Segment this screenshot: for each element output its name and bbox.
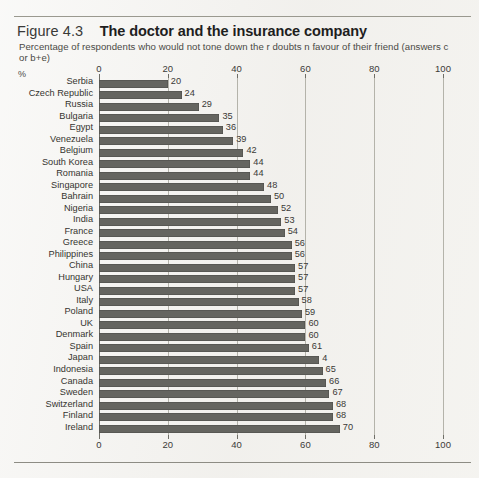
category-label: Czech Republic	[29, 88, 93, 98]
axis-tick-label-100: 100	[435, 439, 451, 450]
category-label: Venezuela	[50, 134, 93, 144]
bar-value-label: 70	[343, 422, 353, 432]
category-labels: SerbiaCzech RepublicRussiaBulgariaEgyptV…	[0, 78, 93, 435]
category-label: Poland	[64, 306, 93, 316]
category-label: Bulgaria	[59, 111, 93, 121]
category-row: Switzerland	[0, 402, 93, 410]
category-row: Poland	[0, 310, 93, 318]
bar-value-label: 44	[253, 157, 263, 167]
axis-tick-label-60: 60	[300, 439, 311, 450]
axis-tick-label-40: 40	[231, 439, 242, 450]
category-row: Finland	[0, 413, 93, 421]
bottom-divider	[14, 462, 471, 463]
bar-row: 61	[99, 344, 443, 352]
bar-row: 53	[99, 218, 443, 226]
category-label: Canada	[61, 376, 93, 386]
category-label: Greece	[63, 237, 93, 247]
bar	[99, 126, 223, 134]
bar-row: 54	[99, 229, 443, 237]
bar-value-label: 57	[298, 284, 308, 294]
bar	[99, 390, 329, 398]
bar-row: 44	[99, 160, 443, 168]
category-row: France	[0, 229, 93, 237]
category-row: Nigeria	[0, 206, 93, 214]
bar-value-label: 35	[222, 111, 232, 121]
bar-value-label: 44	[253, 168, 263, 178]
bar-value-label: 60	[308, 318, 318, 328]
category-label: Bahrain	[61, 191, 93, 201]
axis-tick-label-0: 0	[96, 63, 101, 74]
bar-row: 68	[99, 413, 443, 421]
axis-tick-label-100: 100	[435, 63, 451, 74]
bar-row: 57	[99, 287, 443, 295]
axis-tick-label-80: 80	[369, 63, 380, 74]
category-label: Italy	[76, 295, 93, 305]
bar-value-label: 59	[305, 307, 315, 317]
bar-value-label: 20	[171, 76, 181, 86]
axis-tick-20	[168, 74, 169, 78]
bar-row: 4	[99, 356, 443, 364]
category-row: Ireland	[0, 425, 93, 433]
bar	[99, 183, 264, 191]
category-row: Spain	[0, 344, 93, 352]
bar	[99, 137, 233, 145]
axis-tick-label-0: 0	[96, 439, 101, 450]
category-label: Belgium	[60, 145, 93, 155]
category-row: UK	[0, 321, 93, 329]
bar	[99, 172, 250, 180]
bar-row: 66	[99, 379, 443, 387]
category-label: Switzerland	[46, 399, 94, 409]
bar-row: 44	[99, 172, 443, 180]
bar	[99, 379, 326, 387]
category-row: Russia	[0, 103, 93, 111]
category-label: France	[64, 226, 93, 236]
bar	[99, 264, 295, 272]
bar-row: 60	[99, 321, 443, 329]
bar-value-label: 42	[246, 145, 256, 155]
bar-value-label: 61	[312, 341, 322, 351]
category-label: Indonesia	[53, 364, 93, 374]
axis-tick-100	[443, 74, 444, 78]
bar	[99, 310, 302, 318]
bar-row: 50	[99, 195, 443, 203]
category-row: Venezuela	[0, 137, 93, 145]
bar-value-label: 57	[298, 261, 308, 271]
bar	[99, 413, 333, 421]
figure-title: The doctor and the insurance company	[100, 23, 367, 39]
bar	[99, 229, 285, 237]
bar	[99, 206, 278, 214]
bar-value-label: 4	[322, 353, 327, 363]
bar-value-label: 56	[295, 249, 305, 259]
gridline-100	[443, 78, 444, 435]
axis-tick-80	[374, 74, 375, 78]
bar-row: 29	[99, 103, 443, 111]
bar-row: 52	[99, 206, 443, 214]
category-label: Philippines	[49, 249, 93, 259]
category-label: Hungary	[58, 272, 93, 282]
bar-row: 57	[99, 264, 443, 272]
category-label: Nigeria	[64, 203, 93, 213]
category-row: Canada	[0, 379, 93, 387]
bar-row: 48	[99, 183, 443, 191]
bar-row: 68	[99, 402, 443, 410]
bar-row: 59	[99, 310, 443, 318]
category-row: Philippines	[0, 252, 93, 260]
bar-row: 65	[99, 367, 443, 375]
bar	[99, 160, 250, 168]
bar	[99, 367, 323, 375]
bar-value-label: 36	[226, 122, 236, 132]
bar-row: 20	[99, 80, 443, 88]
axis-tick-0	[99, 74, 100, 78]
bar-value-label: 52	[281, 203, 291, 213]
bar	[99, 252, 292, 260]
bar-value-label: 66	[329, 376, 339, 386]
bar	[99, 241, 292, 249]
bar-value-label: 67	[332, 387, 342, 397]
category-row: Indonesia	[0, 367, 93, 375]
axis-tick-label-20: 20	[163, 63, 174, 74]
bar-row: 57	[99, 275, 443, 283]
category-label: Romania	[56, 168, 93, 178]
category-row: Greece	[0, 241, 93, 249]
bar	[99, 275, 295, 283]
category-label: Japan	[68, 352, 93, 362]
